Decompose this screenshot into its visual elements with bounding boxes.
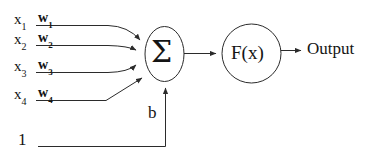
weight-label-3-subscript: 3 bbox=[48, 67, 53, 77]
weight-label-1-base: w bbox=[38, 10, 48, 25]
bias-connection bbox=[38, 88, 166, 147]
input-label-4-base: x bbox=[14, 86, 22, 102]
input-label-1: x1 bbox=[14, 12, 27, 30]
input-label-3-base: x bbox=[14, 58, 22, 74]
activation-function-label: F(x) bbox=[231, 43, 264, 62]
weight-label-3: w3 bbox=[38, 58, 53, 75]
input-label-2-subscript: 2 bbox=[22, 41, 27, 52]
input-label-3-subscript: 3 bbox=[22, 68, 27, 79]
weight-label-2-subscript: 2 bbox=[48, 40, 53, 50]
input-label-4: x4 bbox=[14, 87, 27, 105]
weight-label-3-base: w bbox=[38, 57, 48, 72]
input-label-1-subscript: 1 bbox=[22, 21, 27, 32]
weight-label-2: w2 bbox=[38, 31, 53, 48]
input-label-1-base: x bbox=[14, 11, 22, 27]
weight-label-1: w1 bbox=[38, 11, 53, 28]
input-label-2: x2 bbox=[14, 32, 27, 50]
input-label-4-subscript: 4 bbox=[22, 96, 27, 107]
input-label-3: x3 bbox=[14, 59, 27, 77]
output-label: Output bbox=[307, 40, 354, 57]
weight-label-1-subscript: 1 bbox=[48, 20, 53, 30]
bias-weight-label: b bbox=[148, 104, 157, 121]
bias-constant-label: 1 bbox=[18, 131, 27, 148]
weight-label-2-base: w bbox=[38, 30, 48, 45]
weight-label-4: w4 bbox=[38, 86, 53, 103]
weight-label-4-base: w bbox=[38, 85, 48, 100]
weight-label-4-subscript: 4 bbox=[48, 95, 53, 105]
neuron-diagram-canvas bbox=[0, 0, 372, 158]
summation-symbol-label: Σ bbox=[151, 37, 172, 67]
neuron-diagram: x1 x2 x3 x4 w1 w2 w3 w4 Σ F(x) b 1 Outpu… bbox=[0, 0, 372, 158]
input-label-2-base: x bbox=[14, 31, 22, 47]
